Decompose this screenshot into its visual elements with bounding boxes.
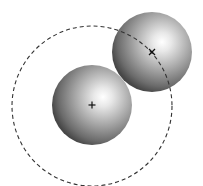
- diagram-canvas: [0, 0, 203, 186]
